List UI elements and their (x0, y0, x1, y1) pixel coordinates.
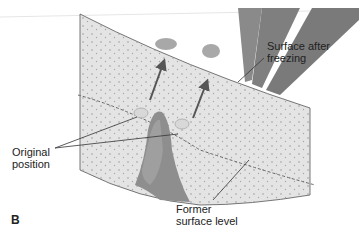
stone-original-1 (134, 108, 148, 118)
panel-label: B (11, 213, 20, 227)
frost-heave-diagram: Surface after freezing Original position… (0, 0, 359, 242)
stone-heaved-2 (202, 44, 220, 58)
label-original-position: Original position (12, 146, 50, 170)
label-former-surface-level: Former surface level (176, 203, 238, 227)
label-surface-after-freezing: Surface after freezing (267, 40, 330, 64)
background-line (0, 10, 359, 17)
stone-heaved-1 (155, 38, 177, 50)
stone-original-2 (175, 119, 189, 129)
